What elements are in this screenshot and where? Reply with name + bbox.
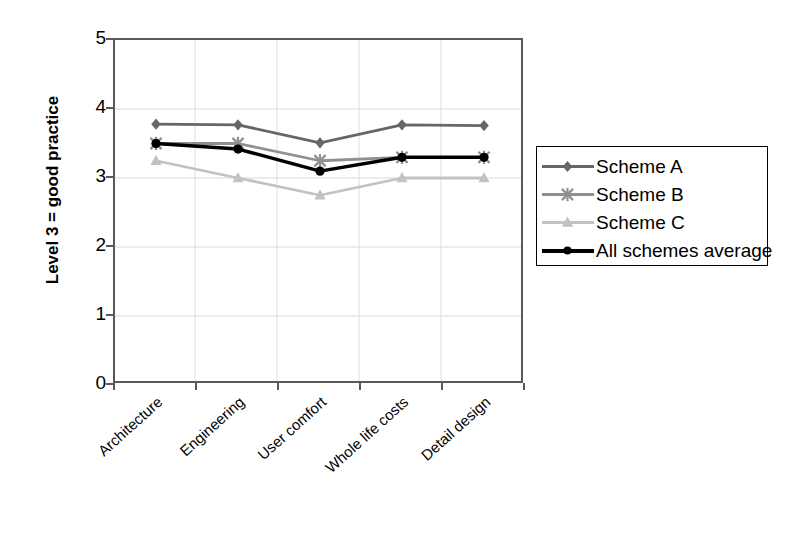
chart-legend: Scheme AScheme BScheme CAll schemes aver… (536, 146, 768, 266)
data-point-marker (397, 119, 407, 130)
legend-item-all-schemes-average[interactable]: All schemes average (537, 236, 767, 264)
y-tick-label: 3 (78, 166, 106, 185)
legend-marker-icon (560, 243, 575, 258)
legend-label: Scheme A (594, 157, 683, 176)
y-tick-label: 5 (78, 28, 106, 47)
data-point-marker (563, 246, 571, 254)
data-point-marker (315, 137, 325, 148)
data-point-marker (479, 153, 488, 162)
y-tick-mark (106, 107, 113, 109)
legend-label: Scheme B (594, 185, 684, 204)
chart-page: Level 3 = good practice 543210 Architect… (0, 0, 803, 540)
y-tick-label: 2 (78, 235, 106, 254)
legend-swatch-icon (542, 184, 594, 204)
data-point-marker (315, 166, 324, 175)
x-tick-mark (195, 383, 197, 390)
legend-swatch-icon (542, 212, 594, 232)
x-tick-mark (359, 383, 361, 390)
series-canvas (115, 40, 521, 381)
legend-swatch-icon (542, 240, 594, 260)
y-tick-mark (106, 176, 113, 178)
legend-marker-icon (560, 187, 575, 202)
x-tick-mark (441, 383, 443, 390)
y-axis-title: Level 3 = good practice (43, 40, 63, 340)
data-point-marker (233, 144, 242, 153)
x-tick-mark (523, 383, 525, 390)
data-point-marker (563, 161, 573, 172)
legend-item-scheme-c[interactable]: Scheme C (537, 208, 767, 236)
x-tick-mark (113, 383, 115, 390)
legend-label: Scheme C (594, 213, 685, 232)
plot-area (113, 38, 523, 383)
y-tick-mark (106, 245, 113, 247)
y-tick-label: 1 (78, 304, 106, 323)
legend-marker-icon (560, 159, 575, 174)
data-point-marker (397, 153, 406, 162)
legend-marker-icon (560, 215, 575, 230)
x-tick-mark (277, 383, 279, 390)
data-point-marker (479, 120, 489, 131)
legend-label: All schemes average (594, 241, 772, 260)
data-point-marker (150, 155, 161, 165)
legend-swatch-icon (542, 156, 594, 176)
legend-item-scheme-a[interactable]: Scheme A (537, 152, 767, 180)
y-tick-mark (106, 383, 113, 385)
y-tick-mark (106, 38, 113, 40)
y-tick-mark (106, 314, 113, 316)
y-tick-label: 0 (78, 373, 106, 392)
data-point-marker (562, 188, 573, 201)
data-point-marker (562, 217, 573, 227)
data-point-marker (233, 119, 243, 130)
data-point-marker (151, 119, 161, 130)
legend-item-scheme-b[interactable]: Scheme B (537, 180, 767, 208)
y-tick-label: 4 (78, 97, 106, 116)
data-point-marker (151, 139, 160, 148)
